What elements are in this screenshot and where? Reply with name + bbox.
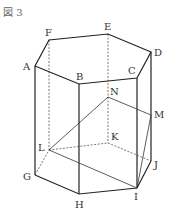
hidden-edges — [35, 34, 151, 175]
bottom-visible-edges — [35, 161, 151, 194]
label-M: M — [154, 109, 164, 120]
label-F: F — [45, 27, 52, 38]
label-B: B — [76, 71, 83, 82]
segment-LI — [49, 150, 137, 188]
label-C: C — [128, 65, 136, 76]
segment-MI — [137, 115, 151, 188]
label-I: I — [134, 191, 138, 202]
label-L: L — [38, 142, 45, 153]
label-E: E — [104, 21, 111, 32]
label-N: N — [110, 86, 119, 97]
label-A: A — [22, 61, 31, 72]
label-D: D — [154, 47, 162, 58]
edge-GL — [35, 150, 49, 175]
segment-NM — [108, 97, 151, 115]
hexagonal-prism-diagram: A B C D E F G H I J K L M N — [0, 0, 173, 222]
edge-KJ — [108, 143, 151, 161]
top-face-ABCDEF — [35, 34, 151, 84]
label-K: K — [111, 131, 119, 142]
label-G: G — [23, 171, 31, 182]
label-H: H — [75, 199, 84, 210]
label-J: J — [153, 159, 158, 170]
